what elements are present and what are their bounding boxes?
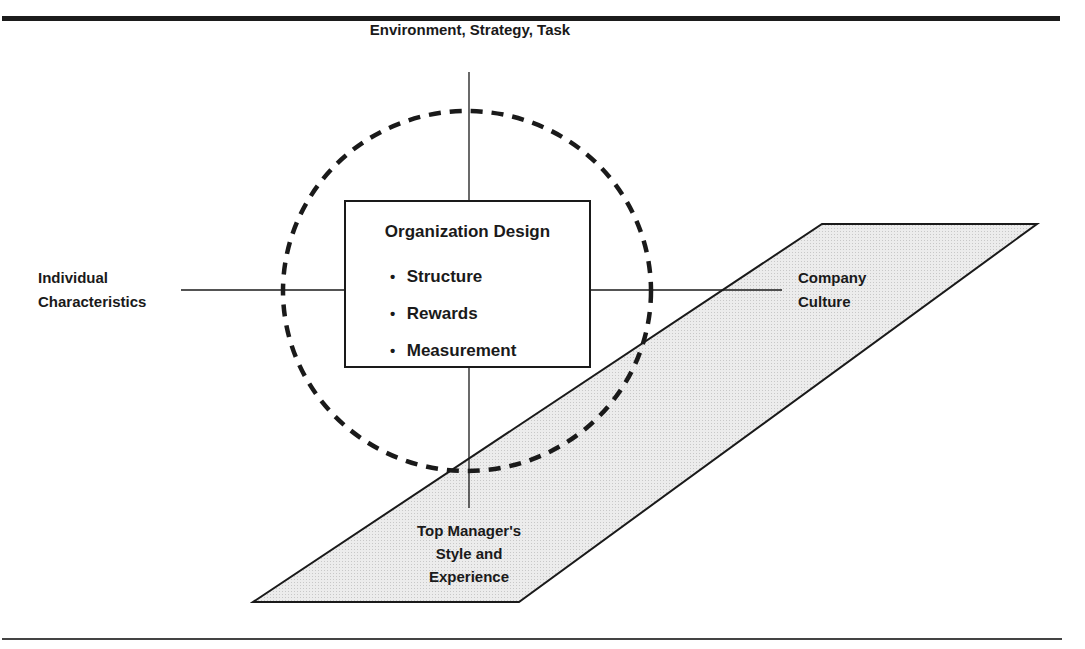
label-line: Experience	[369, 565, 569, 588]
bottom-rule	[2, 638, 1062, 640]
label-line: Company	[798, 266, 866, 290]
box-item-rewards: • Rewards	[390, 295, 516, 332]
label-line: Style and	[369, 542, 569, 565]
bullet-icon: •	[390, 295, 402, 332]
bullet-icon: •	[390, 332, 402, 369]
label-line: Culture	[798, 290, 866, 314]
box-item-label: Rewards	[407, 304, 478, 323]
organization-design-box: Organization Design • Structure • Reward…	[344, 200, 591, 368]
box-item-label: Measurement	[407, 341, 517, 360]
box-item-measurement: • Measurement	[390, 332, 516, 369]
label-environment-strategy-task: Environment, Strategy, Task	[340, 18, 600, 42]
box-title: Organization Design	[346, 222, 589, 242]
label-line: Individual	[38, 266, 146, 290]
label-individual-characteristics: Individual Characteristics	[38, 266, 146, 314]
label-line: Top Manager's	[369, 519, 569, 542]
bullet-icon: •	[390, 258, 402, 295]
label-line: Characteristics	[38, 290, 146, 314]
label-company-culture: Company Culture	[798, 266, 866, 314]
box-item-structure: • Structure	[390, 258, 516, 295]
box-item-list: • Structure • Rewards • Measurement	[390, 258, 516, 369]
box-item-label: Structure	[407, 267, 483, 286]
label-top-managers-style: Top Manager's Style and Experience	[369, 519, 569, 588]
